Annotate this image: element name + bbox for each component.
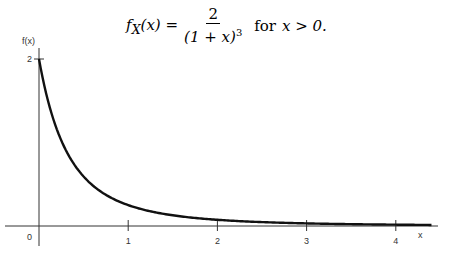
x-tick-label: 4 [393, 236, 398, 246]
x-tick-label: 1 [126, 236, 131, 246]
x-axis-label: x [418, 230, 423, 240]
density-curve [39, 59, 431, 225]
origin-label: 0 [27, 232, 32, 242]
x-tick-label: 2 [215, 236, 220, 246]
density-plot: 1234 2 f(x) x 0 [0, 0, 453, 258]
x-tick-label: 3 [304, 236, 309, 246]
y-tick-label: 2 [27, 54, 32, 64]
y-axis-label: f(x) [22, 36, 35, 46]
y-ticks: 2 [27, 54, 44, 64]
